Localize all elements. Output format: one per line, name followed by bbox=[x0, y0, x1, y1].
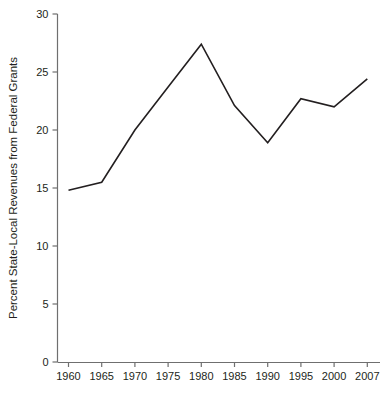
y-tick-label: 10 bbox=[36, 240, 48, 252]
line-chart: 051015202530 196019651970197519801985199… bbox=[0, 0, 392, 394]
x-tick-label: 2007 bbox=[355, 370, 379, 382]
y-axis-title: Percent State-Local Revenues from Federa… bbox=[7, 57, 19, 319]
y-tick-label: 25 bbox=[36, 66, 48, 78]
x-tick-label: 1960 bbox=[56, 370, 80, 382]
x-tick-label: 1990 bbox=[255, 370, 279, 382]
y-tick-label: 15 bbox=[36, 182, 48, 194]
y-tick-label: 30 bbox=[36, 8, 48, 20]
x-tick-label: 1970 bbox=[123, 370, 147, 382]
chart-container: 051015202530 196019651970197519801985199… bbox=[0, 0, 392, 394]
y-tick-label: 0 bbox=[42, 356, 48, 368]
x-tick-label: 1985 bbox=[222, 370, 246, 382]
x-tick-label: 1995 bbox=[289, 370, 313, 382]
y-tick-label: 5 bbox=[42, 298, 48, 310]
y-tick-label: 20 bbox=[36, 124, 48, 136]
x-tick-label: 1980 bbox=[189, 370, 213, 382]
x-tick-label: 1965 bbox=[89, 370, 113, 382]
x-tick-label: 1975 bbox=[156, 370, 180, 382]
chart-background bbox=[0, 0, 392, 394]
x-tick-label: 2000 bbox=[322, 370, 346, 382]
